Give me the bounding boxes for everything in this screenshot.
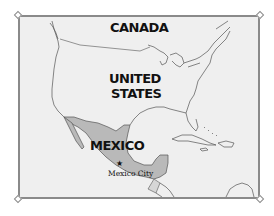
florida — [186, 107, 198, 131]
canada-us-border — [60, 39, 150, 51]
st-lawrence — [200, 21, 230, 57]
label-mexico-city: Mexico City — [108, 170, 153, 178]
hispaniola — [218, 141, 234, 147]
gulf-coast — [130, 107, 186, 125]
south-america — [226, 183, 254, 197]
great-lakes — [148, 45, 200, 67]
star-icon: ★ — [116, 160, 123, 168]
west-coast — [52, 21, 64, 117]
map-frame[interactable]: CANADA UNITED STATES MEXICO ★ Mexico Cit… — [18, 15, 260, 199]
label-mexico: MEXICO — [90, 139, 144, 152]
label-united-states-line1: UNITED — [109, 72, 161, 85]
label-canada: CANADA — [110, 21, 168, 34]
jamaica — [200, 148, 208, 151]
resize-handle-bottom-right[interactable] — [256, 195, 264, 203]
east-coast — [188, 31, 230, 107]
label-united-states-line2: STATES — [111, 87, 161, 100]
cuba — [172, 135, 216, 145]
